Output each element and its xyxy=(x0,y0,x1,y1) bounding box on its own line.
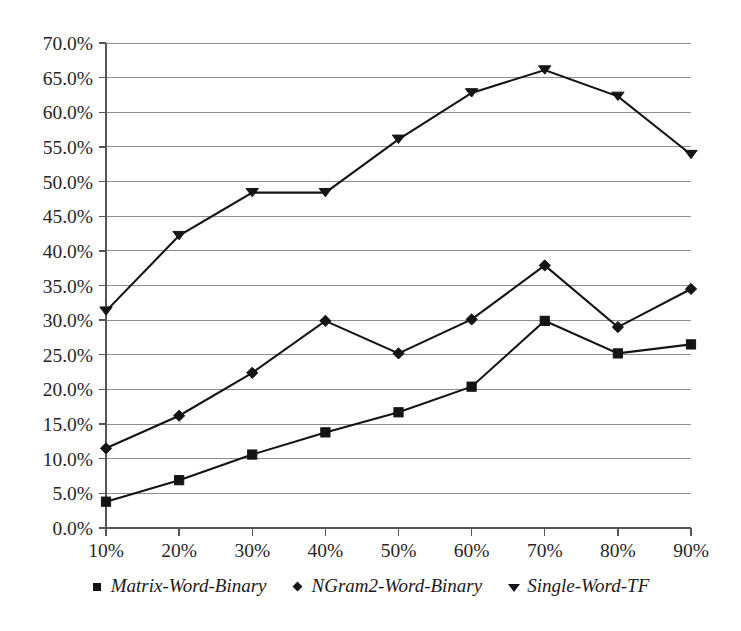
y-tick-label: 50.0% xyxy=(43,172,93,193)
data-point-triangle-down xyxy=(539,66,551,74)
series-matrix-word-binary xyxy=(101,316,695,506)
x-tick-label: 20% xyxy=(161,540,197,561)
y-tick-label: 25.0% xyxy=(43,345,93,366)
legend-label: Matrix-Word-Binary xyxy=(111,575,267,597)
legend-item-single-word-tf: Single-Word-TF xyxy=(508,575,649,597)
data-point-square xyxy=(686,340,695,349)
x-tick-label: 10% xyxy=(88,540,124,561)
x-tick-label: 50% xyxy=(381,540,417,561)
data-point-square xyxy=(394,408,403,417)
series-single-word-tf xyxy=(100,66,697,316)
legend-label: Single-Word-TF xyxy=(527,575,649,597)
legend-item-matrix-word-binary: Matrix-Word-Binary xyxy=(92,575,267,597)
x-tick-label: 90% xyxy=(673,540,709,561)
axes xyxy=(99,43,691,536)
y-tick-label: 35.0% xyxy=(43,276,93,297)
y-tick-label: 55.0% xyxy=(43,137,93,158)
series-ngram2-word-binary xyxy=(100,260,696,454)
data-point-diamond xyxy=(174,410,185,421)
data-point-square xyxy=(175,476,184,485)
chart-container: 0.0%5.0%10.0%15.0%20.0%25.0%30.0%35.0%40… xyxy=(0,0,741,631)
data-point-triangle-down xyxy=(100,307,112,315)
data-point-square xyxy=(613,349,622,358)
y-tick-label: 20.0% xyxy=(43,379,93,400)
triangle-down-marker-icon xyxy=(508,580,520,592)
y-tick-label: 70.0% xyxy=(43,33,93,54)
y-tick-label: 30.0% xyxy=(43,310,93,331)
data-point-square xyxy=(101,497,110,506)
legend-item-ngram2-word-binary: NGram2-Word-Binary xyxy=(293,575,483,597)
y-tick-label: 65.0% xyxy=(43,68,93,89)
x-axis-tick-labels: 10%20%30%40%50%60%70%80%90% xyxy=(88,540,709,561)
data-point-square xyxy=(321,428,330,437)
data-point-diamond xyxy=(100,443,111,454)
chart-legend: Matrix-Word-Binary NGram2-Word-Binary Si… xyxy=(0,575,741,597)
x-tick-label: 80% xyxy=(600,540,636,561)
y-tick-label: 40.0% xyxy=(43,241,93,262)
x-tick-label: 30% xyxy=(234,540,270,561)
y-tick-label: 60.0% xyxy=(43,102,93,123)
y-axis-tick-labels: 0.0%5.0%10.0%15.0%20.0%25.0%30.0%35.0%40… xyxy=(43,33,93,539)
data-series xyxy=(100,66,697,506)
y-tick-label: 10.0% xyxy=(43,449,93,470)
x-tick-label: 40% xyxy=(308,540,344,561)
data-point-square xyxy=(467,382,476,391)
x-tick-label: 70% xyxy=(527,540,563,561)
data-point-triangle-down xyxy=(685,150,697,158)
data-point-square xyxy=(540,316,549,325)
y-tick-label: 5.0% xyxy=(52,483,93,504)
diamond-marker-icon xyxy=(293,580,305,592)
square-marker-icon xyxy=(92,580,104,592)
legend-label: NGram2-Word-Binary xyxy=(312,575,483,597)
gridlines xyxy=(106,43,691,528)
data-point-triangle-down xyxy=(173,231,185,239)
x-tick-label: 60% xyxy=(454,540,490,561)
data-point-square xyxy=(248,450,257,459)
series-line xyxy=(106,70,691,311)
y-tick-label: 45.0% xyxy=(43,206,93,227)
data-point-diamond xyxy=(393,348,404,359)
line-chart: 0.0%5.0%10.0%15.0%20.0%25.0%30.0%35.0%40… xyxy=(0,0,741,631)
y-tick-label: 0.0% xyxy=(52,518,93,539)
y-tick-label: 15.0% xyxy=(43,414,93,435)
